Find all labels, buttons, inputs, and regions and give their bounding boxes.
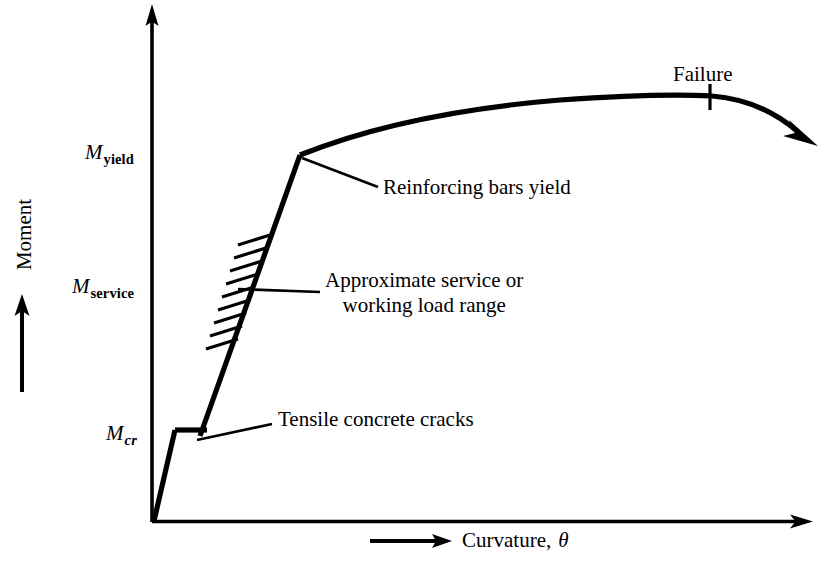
y-tick-label-m-yield: Myield (85, 140, 134, 168)
service-range-line-1: Approximate service or (325, 268, 523, 293)
m-yield-variable: M (85, 140, 103, 164)
x-axis-title: Curvature,θ (462, 528, 569, 553)
annotation-service-load-range: Approximate service or working load rang… (325, 268, 523, 318)
m-cr-subscript: cr (124, 432, 137, 448)
m-cr-variable: M (106, 421, 124, 445)
leader-line-cracking (197, 424, 272, 440)
leader-line-yield (302, 158, 378, 187)
descending-branch (712, 96, 797, 131)
m-service-subscript: service (90, 285, 134, 301)
service-range-line-2: working load range (325, 293, 523, 318)
y-axis-title: Moment (2, 178, 42, 298)
m-service-variable: M (72, 274, 90, 298)
post-yield-plateau (300, 95, 712, 155)
x-axis-title-text: Curvature, (462, 528, 551, 552)
cracked-elastic-branch (200, 155, 300, 436)
theta-symbol: θ (551, 528, 568, 552)
y-tick-label-m-service: Mservice (72, 274, 134, 302)
x-axis-title-arrow (370, 534, 452, 548)
annotation-tensile-concrete-cracks: Tensile concrete cracks (278, 407, 474, 432)
y-axis-title-text: Moment (12, 187, 37, 283)
annotation-failure: Failure (673, 62, 732, 87)
hatch-tick (238, 235, 270, 245)
m-yield-subscript: yield (103, 151, 134, 167)
uncracked-branch (154, 430, 175, 521)
y-axis-title-arrow (15, 294, 30, 392)
figure-canvas: Myield Mservice Mcr Failure Reinforcing … (0, 0, 828, 565)
annotation-reinforcing-bars-yield: Reinforcing bars yield (383, 175, 571, 200)
y-tick-label-m-cr: Mcr (106, 421, 137, 449)
